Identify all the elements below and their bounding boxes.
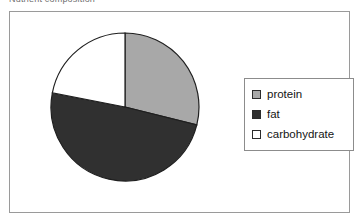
pie-chart-svg (49, 31, 201, 183)
chart-frame: protein fat carbohydrate (9, 11, 350, 213)
legend-label-protein: protein (267, 88, 302, 101)
legend-swatch-carbohydrate (252, 130, 261, 139)
legend-swatch-protein (252, 90, 261, 99)
pie-chart (49, 31, 201, 183)
legend-item-fat[interactable]: fat (252, 105, 346, 123)
legend-label-fat: fat (267, 108, 280, 121)
legend-swatch-fat (252, 110, 261, 119)
legend-label-carbohydrate: carbohydrate (267, 128, 334, 141)
chart-legend: protein fat carbohydrate (244, 78, 354, 151)
legend-item-carbohydrate[interactable]: carbohydrate (252, 125, 346, 143)
legend-item-protein[interactable]: protein (252, 85, 346, 103)
chart-caption: Nutrient composition (9, 0, 209, 4)
